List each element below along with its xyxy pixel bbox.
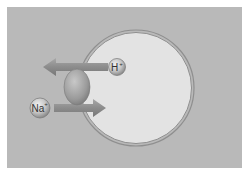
sodium-ion: Na + xyxy=(30,98,50,118)
cell xyxy=(78,30,194,146)
sodium-charge: + xyxy=(44,101,48,107)
antiporter-diagram: H + Na + xyxy=(0,0,249,177)
proton-ion: H + xyxy=(109,59,126,76)
cell-membrane-inner xyxy=(81,33,192,144)
proton-charge: + xyxy=(119,61,123,67)
proton-label: H xyxy=(111,62,118,73)
sodium-label: Na xyxy=(32,103,45,114)
antiporter-protein xyxy=(64,69,90,105)
